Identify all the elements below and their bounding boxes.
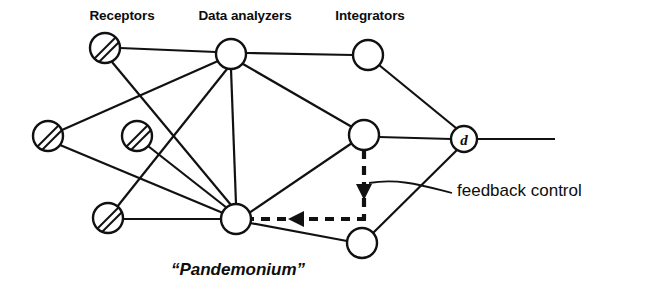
edge-integrator-3-decision-node-d [372,150,457,234]
node-analyzer-1[interactable] [216,39,246,69]
node-receptor-3[interactable] [122,121,152,152]
annotation-feedback-control: feedback control [457,181,582,200]
edge-receptor-2-analyzer-2 [60,145,223,213]
column-label-data-analyzers: Data analyzers [198,8,291,23]
node-receptor-2[interactable] [33,121,63,152]
column-label-receptors: Receptors [89,8,154,23]
node-receptor-1[interactable] [90,33,120,64]
edge-analyzer-2-integrator-3 [250,223,347,241]
feedback-leader-line [369,181,452,193]
diagram-canvas: d Receptors Data analyzers Integrators “… [0,0,652,289]
pandemonium-diagram: d Receptors Data analyzers Integrators “… [0,0,652,289]
edge-analyzer-2-integrator-2 [249,143,352,213]
node-decision-node-d[interactable]: d [451,126,477,152]
node-integrator-2[interactable] [349,120,379,150]
edge-analyzer-1-integrator-1 [246,53,353,55]
edge-analyzer-1-analyzer-2 [231,69,236,204]
node-integrator-3[interactable] [347,228,377,258]
edge-receptor-2-analyzer-1 [62,61,218,130]
edge-integrator-2-decision-node-d [379,137,451,139]
feedback-arrow-left-icon [288,211,304,227]
caption-pandemonium: “Pandemonium” [171,260,306,279]
node-receptor-4[interactable] [93,203,123,234]
node-analyzer-2[interactable] [221,204,251,234]
decision-node-label: d [460,132,468,148]
node-integrator-1[interactable] [353,40,383,70]
feedback-arrow-down-icon [356,184,372,200]
edge-receptor-1-analyzer-1 [120,48,216,52]
feedback-control-path [252,150,452,227]
edge-integrator-1-decision-node-d [379,65,456,128]
edge-analyzer-1-integrator-2 [243,64,352,127]
column-label-integrators: Integrators [335,8,404,23]
